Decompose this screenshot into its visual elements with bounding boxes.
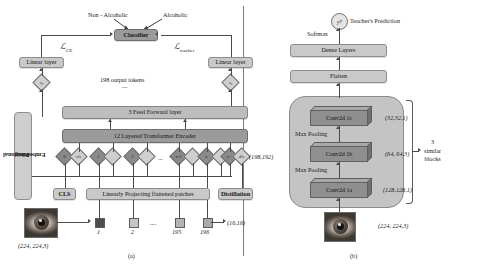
ce-path-horizontal — [41, 35, 111, 36]
encoder-to-ff-arrow2 — [183, 119, 187, 122]
conv2d-1b-label: Conv2d 1b — [310, 146, 368, 162]
linear-projection-box[interactable]: Linearly Projecting flattened patches — [86, 188, 210, 200]
token-shape-annotation: (198,192) — [249, 153, 273, 160]
input-eye-image-b — [324, 212, 356, 242]
loss-teacher-label: ℒteacher — [174, 42, 194, 53]
max-pooling-label-2: Max Pooling — [295, 166, 327, 173]
softmax-label: Softmax — [307, 30, 328, 37]
patch-label-195: 195 — [172, 228, 181, 235]
teacher-prediction-label: Teacher's Prediction — [350, 17, 400, 24]
token-row-dots: ... — [158, 154, 163, 161]
conv2d-1a-label: Conv2d 1a — [310, 182, 368, 198]
patch-shape-annotation: (16,16) — [227, 219, 245, 226]
flatten-box[interactable]: Flatten — [290, 70, 387, 83]
conv2d-1c-shape: (32,32,1) — [385, 114, 408, 121]
panel-a-caption: (a) — [128, 252, 135, 259]
cls-left-in-arrow — [39, 89, 43, 92]
patch-stem-1 — [99, 200, 100, 218]
conv2d-1c-slab[interactable]: Conv2d 1c — [310, 106, 368, 126]
eye-to-conv-arrow-b — [336, 198, 340, 201]
classifier-box[interactable]: Classifier — [114, 29, 158, 41]
similar-blocks-bracket — [406, 100, 413, 204]
distillation-token-box[interactable]: Distillation — [218, 188, 253, 200]
dense-to-teacher-arrow — [336, 28, 340, 31]
teacher-path-vertical — [231, 35, 232, 57]
convblock-to-flatten-arrow — [336, 83, 340, 86]
patch-square-2 — [129, 218, 139, 228]
linear-layer-left[interactable]: Linear layer — [19, 57, 64, 68]
loss-ce-label: ℒCE — [60, 42, 72, 53]
patch-stem-195 — [179, 200, 180, 218]
cls-right-in-arrow — [228, 89, 232, 92]
conv1a-to-1b-arrow — [336, 162, 340, 165]
flatten-to-dense-arrow — [336, 57, 340, 60]
input-shape-b: (224, 224,3) — [378, 222, 408, 229]
patch-stem-2 — [133, 200, 134, 218]
conv2d-1c-label: Conv2d 1c — [310, 110, 368, 126]
loss-teacher-subscript: teacher — [180, 48, 194, 53]
loss-ce-subscript: CE — [66, 48, 72, 53]
conv2d-1b-slab[interactable]: Conv2d 1b — [310, 142, 368, 162]
patch-square-1 — [95, 218, 105, 228]
eye-glint-a — [39, 219, 42, 222]
cls-embedding-left-label: c₀ — [35, 76, 48, 89]
patch-row-dots: .... — [150, 219, 156, 226]
cls-token-box[interactable]: CLS — [53, 188, 76, 200]
similar-blocks-line2: similar — [424, 147, 441, 154]
patch-square-195 — [175, 218, 185, 228]
ce-path-vertical — [41, 35, 42, 57]
dense-layers-box[interactable]: Dense Layers — [290, 44, 387, 57]
patch-label-196: 196 — [200, 228, 209, 235]
teacher-path-horizontal — [161, 35, 231, 36]
eye-to-patch-line-a — [57, 222, 89, 223]
patch-label-2: 2 — [131, 228, 134, 235]
teacher-arrow-into-classifier — [155, 32, 158, 36]
figure-canvas: Non - Alcoholic Alcoholic Classifier ℒCE… — [0, 0, 477, 275]
patch-shape-arrow — [223, 219, 226, 223]
token-diamond-dist-embed-label: dis — [235, 150, 248, 163]
conv1b-to-1c-arrow — [336, 126, 340, 129]
positional-embedding-box[interactable]: Positional Embedding — [14, 112, 32, 200]
cls-right-up-arrow — [228, 68, 232, 71]
conv2d-1a-slab[interactable]: Conv2d 1a — [310, 178, 368, 198]
max-pooling-label-1: Max Pooling — [295, 130, 327, 137]
input-eye-image-a — [24, 208, 58, 238]
positional-embedding-label: Positional Embedding — [12, 141, 33, 172]
similar-blocks-label: 3 similar blocks — [424, 138, 441, 164]
patch-square-196 — [203, 218, 213, 228]
encoder-to-ff-arrow — [108, 119, 112, 122]
ce-arrow-into-classifier — [110, 32, 113, 36]
cls-embedding-right-label: c₀ — [224, 76, 237, 89]
positional-embedding-line2: Embedding — [15, 152, 46, 159]
patch-stem-196 — [207, 200, 208, 218]
panel-b-caption: (b) — [350, 252, 357, 259]
similar-blocks-line1: 3 — [431, 138, 434, 145]
cls-left-up-arrow — [39, 68, 43, 71]
teacher-node-subscript: T — [340, 19, 342, 24]
feed-forward-layer[interactable]: 3 Feed Forward layer — [62, 106, 248, 119]
input-shape-a: (224, 224,3) — [18, 242, 48, 249]
patch-label-1: 1 — [97, 228, 100, 235]
transformer-encoder[interactable]: 12 Layered Transformer Encoder — [62, 129, 248, 143]
cls-left-down-line — [42, 89, 43, 117]
eye-glint-b — [338, 223, 341, 226]
similar-blocks-line3: blocks — [425, 155, 441, 162]
similar-blocks-arrow — [418, 148, 421, 152]
eye-to-patch-arrow-a — [88, 219, 91, 223]
cls-token-stem — [65, 176, 66, 188]
output-tokens-dots: .... — [122, 83, 127, 89]
linear-layer-right[interactable]: Linear layer — [208, 57, 253, 68]
